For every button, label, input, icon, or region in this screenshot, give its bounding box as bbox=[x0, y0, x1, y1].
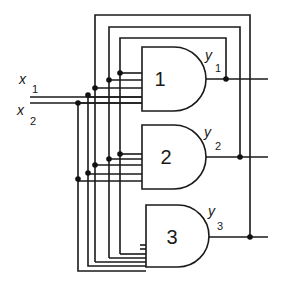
svg-text:y: y bbox=[203, 124, 212, 140]
output-label-y3: y 3 bbox=[207, 203, 223, 232]
svg-text:y: y bbox=[207, 203, 216, 219]
output-label-y2: y 2 bbox=[203, 124, 221, 152]
input-label-x2: x 2 bbox=[16, 102, 36, 127]
svg-text:1: 1 bbox=[215, 62, 221, 74]
svg-text:y: y bbox=[204, 47, 213, 63]
logic-circuit-diagram: x 1 x 2 bbox=[0, 0, 284, 286]
junction-y3 bbox=[247, 234, 253, 240]
and-gate-3: 3 bbox=[146, 205, 209, 267]
gate3-inputs bbox=[140, 245, 146, 249]
svg-text:1: 1 bbox=[154, 68, 165, 90]
output-label-y1: y 1 bbox=[204, 47, 221, 74]
svg-text:1: 1 bbox=[32, 83, 38, 95]
svg-text:x: x bbox=[16, 102, 25, 118]
svg-text:2: 2 bbox=[30, 115, 36, 127]
junction-y1 bbox=[223, 76, 229, 82]
svg-text:3: 3 bbox=[217, 220, 223, 232]
junction-y2 bbox=[237, 154, 243, 160]
svg-text:2: 2 bbox=[215, 140, 221, 152]
svg-text:x: x bbox=[18, 71, 27, 87]
svg-text:2: 2 bbox=[160, 146, 171, 168]
and-gate-1: 1 bbox=[142, 47, 206, 111]
svg-text:3: 3 bbox=[166, 226, 177, 248]
input-label-x1: x 1 bbox=[18, 71, 38, 95]
and-gate-2: 2 bbox=[142, 125, 206, 189]
